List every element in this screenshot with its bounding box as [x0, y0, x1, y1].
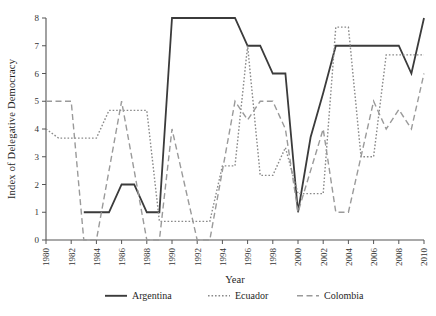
x-tick-label: 2008 [394, 248, 404, 267]
x-tick-label: 2000 [293, 248, 303, 267]
series-line-ecuador [46, 27, 424, 221]
y-tick-label: 0 [35, 235, 40, 245]
x-tick-label: 1984 [92, 248, 102, 267]
chart-series-group [46, 18, 424, 240]
x-tick-label: 1982 [67, 248, 77, 266]
x-tick-label: 2006 [369, 248, 379, 267]
legend-label-ecuador: Ecuador [235, 290, 269, 301]
x-tick-label: 1998 [268, 248, 278, 267]
chart-legend: ArgentinaEcuadorColombia [105, 290, 364, 301]
y-tick-label: 2 [35, 180, 40, 190]
x-tick-label: 1994 [218, 248, 228, 267]
y-tick-label: 4 [35, 124, 40, 134]
x-tick-label: 2004 [344, 248, 354, 267]
x-tick-label: 1992 [193, 248, 203, 266]
y-axis-title: Index of Delegative Democracy [6, 58, 17, 199]
y-tick-label: 7 [35, 41, 40, 51]
chart-container: 012345678 198019821984198619881990199219… [0, 0, 436, 316]
line-chart: 012345678 198019821984198619881990199219… [0, 0, 436, 316]
y-tick-label: 6 [35, 69, 40, 79]
x-tick-label: 1980 [41, 248, 51, 267]
legend-label-argentina: Argentina [132, 290, 172, 301]
x-tick-label: 2010 [419, 248, 429, 267]
y-tick-label: 5 [35, 96, 40, 106]
y-tick-label: 8 [35, 13, 40, 23]
x-tick-label: 1986 [117, 248, 127, 267]
y-tick-label: 3 [35, 152, 40, 162]
x-axis-title: Year [225, 274, 245, 285]
x-tick-label: 1988 [142, 248, 152, 267]
x-tick-label: 2002 [319, 248, 329, 266]
y-tick-label: 1 [35, 207, 40, 217]
x-tick-label: 1990 [167, 248, 177, 267]
x-axis-ticks: 1980198219841986198819901992199419961998… [41, 240, 429, 266]
legend-label-colombia: Colombia [324, 290, 364, 301]
y-axis-ticks: 012345678 [35, 13, 47, 245]
x-tick-label: 1996 [243, 248, 253, 267]
